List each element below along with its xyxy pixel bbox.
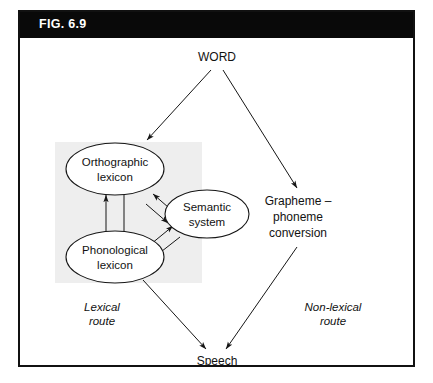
figure-header-bar: FIG. 6.9 — [20, 12, 413, 38]
non-lexical-route-line2: route — [320, 315, 346, 327]
node-semantic-system: Semantic system — [165, 190, 249, 238]
node-phonological-lexicon: Phonological lexicon — [66, 231, 164, 283]
orthographic-lexicon-ellipse — [66, 143, 164, 195]
label-lexical-route: Lexical route — [84, 301, 120, 327]
semantic-system-label-line2: system — [189, 216, 225, 228]
node-orthographic-lexicon: Orthographic lexicon — [66, 143, 164, 195]
lexical-route-line1: Lexical — [84, 301, 120, 313]
connector-phonological-to-speech — [143, 280, 206, 349]
gpc-label-line2: phoneme — [273, 210, 323, 224]
orthographic-lexicon-label-line1: Orthographic — [82, 156, 149, 168]
connector-word-to-gpc — [223, 70, 297, 188]
node-speech-label: Speech — [197, 354, 238, 367]
diagram-canvas: WORD Orthographic lexicon Phonological l… — [20, 38, 413, 367]
phonological-lexicon-ellipse — [66, 231, 164, 283]
phonological-lexicon-label-line1: Phonological — [82, 244, 148, 256]
gpc-label-line1: Grapheme – — [265, 194, 332, 208]
label-non-lexical-route: Non-lexical route — [305, 301, 362, 327]
orthographic-lexicon-label-line2: lexicon — [97, 171, 133, 183]
connector-word-to-orthographic — [147, 70, 211, 140]
semantic-system-label-line1: Semantic — [183, 201, 231, 213]
connector-gpc-to-speech — [226, 247, 297, 349]
non-lexical-route-line1: Non-lexical — [305, 301, 362, 313]
figure-container: FIG. 6.9 — [18, 10, 415, 367]
node-grapheme-phoneme-conversion: Grapheme – phoneme conversion — [265, 194, 332, 240]
figure-number-label: FIG. 6.9 — [39, 17, 87, 31]
lexical-route-line2: route — [89, 315, 115, 327]
phonological-lexicon-label-line2: lexicon — [97, 259, 133, 271]
diagram-svg: WORD Orthographic lexicon Phonological l… — [20, 38, 413, 367]
node-word-label: WORD — [198, 50, 236, 64]
semantic-system-ellipse — [165, 190, 249, 238]
gpc-label-line3: conversion — [269, 226, 327, 240]
